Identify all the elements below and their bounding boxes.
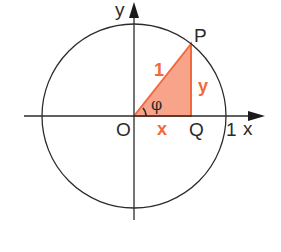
y-axis-arrow-icon — [129, 2, 139, 18]
unit-circle-diagram: y x P O Q 1 1 y x φ — [0, 0, 281, 252]
x-axis-label: x — [243, 118, 253, 139]
adjacent-label: x — [157, 119, 167, 139]
point-p-label: P — [194, 25, 207, 46]
origin-label: O — [116, 119, 131, 140]
y-axis-label: y — [115, 0, 125, 20]
opposite-label: y — [198, 76, 208, 96]
hypotenuse-label: 1 — [154, 60, 164, 80]
point-q-label: Q — [189, 119, 204, 140]
angle-label: φ — [151, 95, 162, 114]
unit-mark-label: 1 — [226, 119, 237, 140]
right-triangle — [134, 44, 191, 116]
